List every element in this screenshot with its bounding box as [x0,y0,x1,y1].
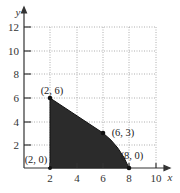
y-axis-label: y [15,6,21,18]
x-tick-6: 6 [100,172,106,184]
x-axis-label: x [167,171,173,183]
y-tick-12: 12 [8,21,19,33]
y-tick-2: 2 [14,139,20,151]
label-2-0: (2, 0) [25,154,48,166]
chart: 12 10 8 6 4 2 2 4 6 8 10 x y (2, 6) (6, … [0,0,180,193]
point-2-6 [48,96,53,101]
point-6-3 [101,131,106,136]
y-tick-6: 6 [14,92,20,104]
point-8-0 [127,166,132,171]
label-8-0: (8, 0) [121,150,144,162]
label-2-6: (2, 6) [41,85,64,97]
y-tick-8: 8 [14,68,20,80]
label-6-3: (6, 3) [112,127,135,139]
x-tick-10: 10 [151,172,163,184]
x-tick-2: 2 [47,172,53,184]
x-tick-4: 4 [74,172,80,184]
x-tick-8: 8 [126,172,132,184]
y-tick-4: 4 [14,116,20,128]
y-tick-10: 10 [8,45,20,57]
